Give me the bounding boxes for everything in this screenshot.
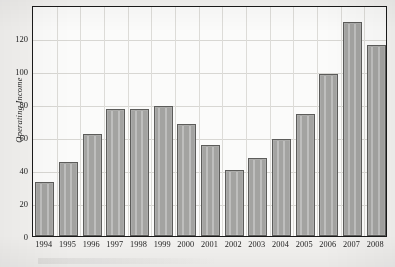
bar-highlight-stripe [158, 108, 160, 235]
x-tick-label: 2008 [367, 240, 384, 249]
bar-highlight-stripe [189, 126, 191, 235]
bar [35, 182, 54, 236]
x-tick-label: 2004 [272, 240, 289, 249]
bar-highlight-stripe [135, 111, 137, 235]
bar-highlight-stripe [229, 172, 231, 235]
bar-highlight-stripe [47, 184, 49, 235]
y-tick-label: 0 [24, 232, 28, 242]
bar-highlight-stripe [64, 164, 66, 235]
bar-highlight-stripe [253, 160, 255, 235]
x-tick-label: 2003 [248, 240, 265, 249]
bar-highlight-stripe [118, 111, 120, 235]
bar [177, 124, 196, 236]
bar [59, 162, 78, 236]
bar-highlight-stripe [300, 116, 302, 235]
bar-highlight-stripe [331, 76, 333, 235]
x-tick-label: 2005 [296, 240, 313, 249]
bar [319, 74, 338, 236]
y-tick-label: 20 [20, 199, 29, 209]
x-tick-label: 1998 [130, 240, 147, 249]
bar-highlight-stripe [87, 136, 89, 235]
bar-highlight-stripe [212, 147, 214, 235]
bar [106, 109, 125, 236]
bar [130, 109, 149, 236]
bar-chart-figure: 020406080100120 199419951996199719981999… [0, 0, 395, 267]
bar-highlight-stripe [236, 172, 238, 235]
bar-highlight-stripe [324, 76, 326, 235]
bar-highlight-stripe [94, 136, 96, 235]
bar-highlight-stripe [141, 111, 143, 235]
bar-highlight-stripe [283, 141, 285, 235]
bar [83, 134, 102, 236]
x-tick-label: 2000 [177, 240, 194, 249]
bar-highlight-stripe [378, 47, 380, 235]
x-tick-label: 1996 [83, 240, 100, 249]
bar-highlight-stripe [70, 164, 72, 235]
bar [154, 106, 173, 236]
bar-highlight-stripe [260, 160, 262, 235]
x-tick-label: 2006 [319, 240, 336, 249]
bar [201, 145, 220, 236]
x-tick-label: 1999 [154, 240, 171, 249]
bar-highlight-stripe [206, 147, 208, 235]
bar-highlight-stripe [371, 47, 373, 235]
bar [296, 114, 315, 236]
x-tick-label: 2001 [201, 240, 218, 249]
x-tick-label: 1994 [35, 240, 52, 249]
x-tick-label: 2002 [225, 240, 242, 249]
bar-highlight-stripe [354, 24, 356, 236]
bar [225, 170, 244, 236]
bar-highlight-stripe [182, 126, 184, 235]
bar-highlight-stripe [277, 141, 279, 235]
x-tick-label: 1995 [59, 240, 76, 249]
bar-highlight-stripe [165, 108, 167, 235]
scan-bleed-artifact [38, 258, 218, 264]
bars-layer [33, 7, 386, 236]
bar [367, 45, 386, 236]
bar-highlight-stripe [348, 24, 350, 236]
x-tick-label: 2007 [343, 240, 360, 249]
y-axis-title: Operating Income [14, 50, 24, 170]
plot-area [32, 6, 387, 237]
bar [248, 158, 267, 236]
x-axis-tick-labels: 1994199519961997199819992000200120022003… [32, 240, 387, 256]
bar-highlight-stripe [307, 116, 309, 235]
bar [272, 139, 291, 236]
x-tick-label: 1997 [106, 240, 123, 249]
y-tick-label: 120 [15, 34, 28, 44]
bar [343, 22, 362, 237]
bar-highlight-stripe [40, 184, 42, 235]
bar-highlight-stripe [111, 111, 113, 235]
